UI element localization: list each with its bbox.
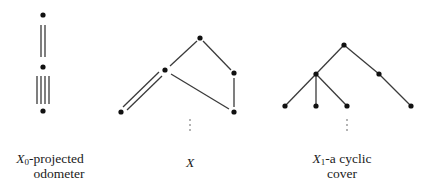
cover-graph (285, 45, 411, 106)
edge (316, 74, 347, 106)
edge (285, 74, 316, 106)
node (197, 35, 202, 40)
node (40, 12, 45, 17)
edge (344, 45, 379, 74)
node (408, 103, 413, 108)
node (313, 103, 318, 108)
edge (203, 41, 231, 70)
edge (171, 74, 229, 109)
double-edge (123, 72, 159, 107)
caption-odometer: X0-projected odometer (14, 153, 86, 180)
edge (316, 45, 344, 74)
edge (379, 74, 411, 106)
double-edge (127, 76, 162, 110)
cover-ellipsis (346, 119, 348, 131)
node (344, 103, 349, 108)
node (231, 70, 236, 75)
caption-cover: X1-a cyclic cover (312, 153, 372, 180)
node (376, 71, 381, 76)
node (282, 103, 287, 108)
node (40, 108, 45, 113)
x-graph (123, 41, 234, 110)
node (313, 71, 318, 76)
node (118, 109, 123, 114)
caption-cover-line2: cover (312, 168, 372, 180)
x-ellipsis (189, 119, 191, 131)
node (341, 42, 346, 47)
edge (170, 41, 197, 66)
node (231, 109, 236, 114)
node (162, 67, 167, 72)
caption-x: X (182, 157, 198, 169)
cover-nodes (282, 42, 413, 108)
node (40, 64, 45, 69)
caption-odometer-line2: odometer (14, 168, 86, 180)
